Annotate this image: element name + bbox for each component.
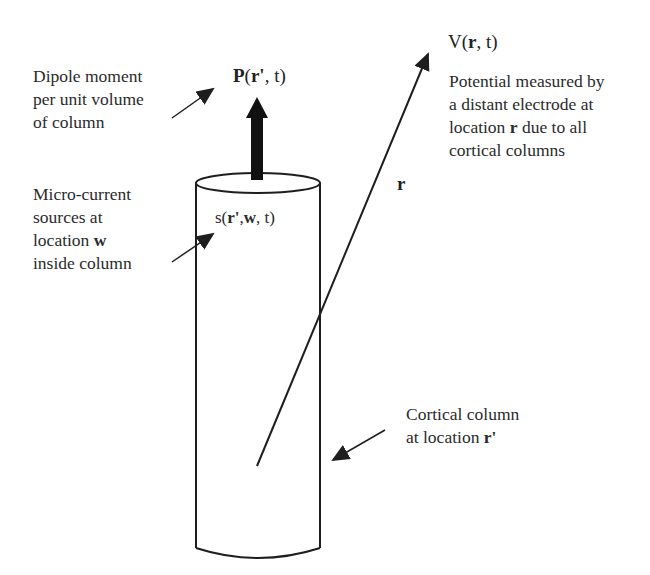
dipole-label-line-2: per unit volume (33, 88, 144, 111)
potential-label-line-3-prefix: location (449, 117, 510, 137)
potential-symbol-rest: , t) (477, 31, 498, 52)
micro-current-label-line-1: Micro-current (33, 183, 132, 206)
source-symbol-arg1: r' (227, 208, 239, 227)
dipole-symbol-func: P (233, 65, 245, 86)
dipole-symbol-rest: , t) (265, 65, 286, 86)
cortical-column-label-line-2: at location r' (406, 426, 519, 449)
dipole-symbol: P(r', t) (233, 65, 286, 87)
dipole-label: Dipole moment per unit volume of column (33, 65, 144, 134)
micro-current-label-line-4: inside column (33, 252, 132, 275)
source-symbol: s(r',w, t) (215, 208, 275, 228)
micro-current-label-line-3: location w (33, 229, 132, 252)
dipole-symbol-arg: r' (251, 65, 265, 86)
micro-current-label-line-3-bold: w (94, 230, 107, 250)
cortical-column-label-line-1: Cortical column (406, 403, 519, 426)
potential-label-line-2: a distant electrode at (449, 93, 605, 116)
cortical-column-label-line-2-prefix: at location (406, 427, 484, 447)
potential-symbol: V(r, t) (448, 31, 498, 53)
position-vector-label: r (397, 173, 405, 195)
micro-current-label-line-3-prefix: location (33, 230, 94, 250)
potential-label-line-3-bold: r (510, 117, 518, 137)
source-symbol-func: s( (215, 208, 227, 227)
potential-label-line-3: location r due to all (449, 116, 605, 139)
cortical-column-pointer-arrow (333, 430, 385, 460)
dipole-label-line-3: of column (33, 111, 144, 134)
dipole-moment-arrow (246, 97, 268, 180)
dipole-pointer-arrow (172, 89, 213, 118)
potential-symbol-func: V( (448, 31, 468, 52)
potential-label-line-3-suffix: due to all (518, 117, 588, 137)
potential-label: Potential measured by a distant electrod… (449, 70, 605, 162)
dipole-label-line-1: Dipole moment (33, 65, 144, 88)
cortical-column-cylinder (196, 173, 320, 558)
cortical-column-label: Cortical column at location r' (406, 403, 519, 449)
source-symbol-arg2: w (244, 208, 256, 227)
potential-symbol-arg: r (468, 31, 476, 52)
micro-current-label: Micro-current sources at location w insi… (33, 183, 132, 275)
position-vector-line (257, 54, 428, 466)
potential-label-line-1: Potential measured by (449, 70, 605, 93)
cortical-column-label-line-2-bold: r' (484, 427, 497, 447)
micro-current-pointer-arrow (172, 234, 213, 262)
micro-current-label-line-2: sources at (33, 206, 132, 229)
potential-label-line-4: cortical columns (449, 139, 605, 162)
source-symbol-rest: , t) (256, 208, 275, 227)
